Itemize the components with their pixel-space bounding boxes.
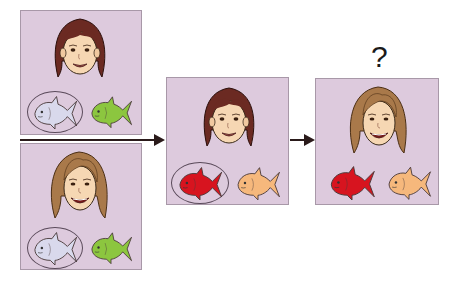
arrow-right-icon — [290, 133, 316, 147]
green-fish-icon — [89, 95, 133, 128]
dark-haired-girl-face-icon — [48, 13, 112, 89]
light-haired-woman-face-icon — [346, 81, 410, 161]
light-haired-woman-face-icon — [47, 146, 111, 226]
connector-line — [20, 139, 146, 141]
green-fish-icon — [89, 231, 133, 264]
peach-fish-icon — [386, 165, 432, 200]
red-fish-icon — [328, 165, 376, 200]
panel-bottom-left — [20, 143, 142, 270]
panel-top-left — [20, 10, 142, 135]
question-mark-label: ? — [371, 42, 388, 72]
panel-middle — [166, 77, 289, 205]
panel-right — [315, 78, 439, 205]
grey-fish-icon — [31, 95, 79, 129]
dark-haired-girl-face-icon — [197, 82, 261, 158]
grey-fish-icon — [31, 231, 79, 265]
peach-fish-icon — [235, 166, 281, 200]
red-fish-icon — [176, 166, 224, 200]
arrow-right-icon — [140, 133, 166, 147]
